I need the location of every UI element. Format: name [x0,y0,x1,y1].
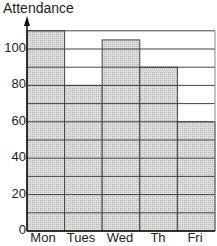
x-tick-th: Th [138,230,178,245]
bar-th [140,67,178,231]
x-tick-wed: Wed [100,230,140,245]
x-tick-fri: Fri [175,230,215,245]
x-tick-mon: Mon [23,230,63,245]
attendance-bar-chart: Attendance 0 20 40 60 80 100 Mon Tues We… [0,0,217,246]
bar-mon [27,31,65,231]
plot-area [0,0,217,246]
y-axis-arrow-icon [24,16,30,26]
x-tick-tues: Tues [61,230,101,245]
bar-wed [102,40,140,231]
